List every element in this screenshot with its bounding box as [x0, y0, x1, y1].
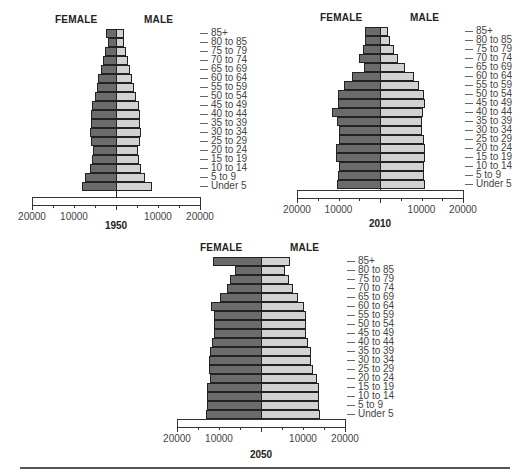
x-axis-tick — [177, 427, 178, 432]
male-bar — [261, 383, 319, 392]
male-bar — [261, 329, 306, 338]
x-axis-tick-label: 10000 — [289, 433, 317, 444]
leader-dash — [347, 351, 355, 352]
male-bar — [261, 392, 319, 401]
male-bar — [261, 311, 306, 320]
female-bar — [209, 365, 262, 374]
female-bar — [213, 257, 262, 266]
male-bar — [261, 347, 311, 356]
leader-dash — [347, 414, 355, 415]
male-bar — [261, 266, 285, 275]
age-group-label: Under 5 — [347, 409, 394, 418]
female-bar — [214, 329, 262, 338]
male-bar — [261, 338, 308, 347]
x-axis-tick — [198, 427, 199, 430]
x-axis-tick — [324, 427, 325, 430]
female-bar — [220, 293, 262, 302]
male-bar — [261, 365, 313, 374]
female-bar — [235, 266, 262, 275]
male-bar — [261, 401, 319, 410]
male-bar — [261, 374, 317, 383]
x-axis-tick — [345, 427, 346, 432]
center-axis-line — [261, 257, 262, 431]
leader-dash — [347, 288, 355, 289]
x-axis-tick — [219, 427, 220, 430]
male-bar — [261, 284, 293, 293]
leader-dash — [347, 261, 355, 262]
x-axis-tick — [303, 427, 304, 430]
female-bar — [207, 383, 262, 392]
female-bar — [210, 374, 262, 383]
x-axis-tick — [261, 427, 262, 432]
male-bar — [261, 275, 289, 284]
chart-year: 2050 — [250, 449, 272, 460]
female-bar — [206, 410, 262, 419]
x-axis-tick-label: 20000 — [331, 433, 359, 444]
female-bar — [230, 275, 262, 284]
leader-dash — [347, 342, 355, 343]
leader-dash — [347, 270, 355, 271]
pyramid-2050: FEMALE MALE 2050 85+80 to 8575 to 7970 t… — [0, 0, 530, 474]
male-bar — [261, 302, 304, 311]
x-axis-tick-label: 10000 — [205, 433, 233, 444]
bottom-divider — [20, 467, 510, 469]
female-bar — [212, 338, 262, 347]
leader-dash — [347, 315, 355, 316]
age-group-text: Under 5 — [358, 408, 394, 419]
leader-dash — [347, 324, 355, 325]
male-bar — [261, 293, 298, 302]
x-axis-frame — [177, 419, 346, 427]
female-bar — [227, 284, 262, 293]
x-axis-tick — [240, 427, 241, 430]
female-bar — [210, 347, 262, 356]
female-bar — [214, 311, 262, 320]
leader-dash — [347, 405, 355, 406]
male-header: MALE — [290, 242, 319, 253]
leader-dash — [347, 369, 355, 370]
male-bar — [261, 257, 290, 266]
leader-dash — [347, 333, 355, 334]
leader-dash — [347, 396, 355, 397]
female-bar — [207, 401, 262, 410]
leader-dash — [347, 360, 355, 361]
leader-dash — [347, 306, 355, 307]
leader-dash — [347, 297, 355, 298]
x-axis-tick — [282, 427, 283, 430]
leader-dash — [347, 279, 355, 280]
female-bar — [207, 392, 262, 401]
male-bar — [261, 410, 320, 419]
female-bar — [211, 302, 262, 311]
x-axis-tick-label: 20000 — [163, 433, 191, 444]
leader-dash — [347, 387, 355, 388]
female-header: FEMALE — [200, 242, 242, 253]
male-bar — [261, 320, 306, 329]
female-bar — [214, 320, 262, 329]
leader-dash — [347, 378, 355, 379]
male-bar — [261, 356, 311, 365]
female-bar — [209, 356, 262, 365]
